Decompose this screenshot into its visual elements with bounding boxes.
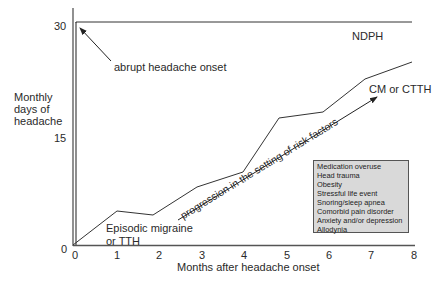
y-axis-label-3: headache <box>14 115 62 127</box>
ndph-line <box>76 22 412 23</box>
abrupt-onset-label: abrupt headache onset <box>114 61 227 73</box>
y-axis-label-2: days of <box>14 103 49 115</box>
x-tick: 1 <box>107 249 127 261</box>
x-tick: 2 <box>149 249 169 261</box>
y-axis-label-1: Monthly <box>14 91 53 103</box>
x-tick: 4 <box>234 249 254 261</box>
episodic-label-1: Episodic migraine <box>106 222 193 234</box>
risk-factor: Medication overuse <box>317 162 405 171</box>
x-tick: 6 <box>319 249 339 261</box>
x-tick: 5 <box>277 249 297 261</box>
x-tick: 0 <box>65 249 85 261</box>
ndph-label: NDPH <box>352 30 383 42</box>
cm-ctth-label: CM or CTTH <box>369 83 431 95</box>
risk-factor: Snoring/sleep apnea <box>317 198 405 207</box>
x-axis-label: Months after headache onset <box>177 261 319 273</box>
risk-factor: Obesity <box>317 180 405 189</box>
y-tick-15: 15 <box>54 132 66 144</box>
x-tick: 8 <box>404 249 424 261</box>
abrupt-onset-arrow <box>80 28 111 61</box>
risk-factors-box: Medication overuse Head trauma Obesity S… <box>313 160 409 233</box>
y-tick-30: 30 <box>54 20 66 32</box>
episodic-label-2: or TTH <box>106 235 140 247</box>
risk-factor: Head trauma <box>317 171 405 180</box>
risk-factor: Comorbid pain disorder <box>317 207 405 216</box>
x-tick: 3 <box>192 249 212 261</box>
risk-factor: Anxiety and/or depression <box>317 216 405 225</box>
risk-factor: Stressful life event <box>317 189 405 198</box>
x-tick: 7 <box>361 249 381 261</box>
risk-factor: Allodynia <box>317 225 405 234</box>
